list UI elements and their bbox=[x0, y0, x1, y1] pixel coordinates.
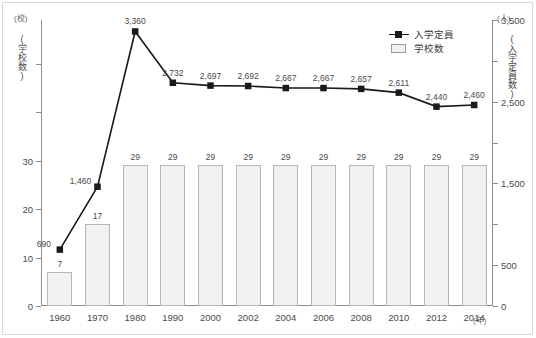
left-axis-title: (学校数) bbox=[16, 34, 29, 81]
line-value-label: 3,360 bbox=[125, 16, 146, 26]
line-marker bbox=[471, 102, 478, 109]
line-value-label: 2,611 bbox=[389, 78, 410, 88]
plot-area: 0102030 05001,5002,5003,500 717292929292… bbox=[41, 20, 493, 306]
line-value-label: 2,697 bbox=[200, 71, 221, 81]
x-axis-label: 2000 bbox=[200, 312, 221, 323]
right-tick bbox=[493, 224, 498, 225]
x-axis-label: 1970 bbox=[87, 312, 108, 323]
x-axis-label: 1990 bbox=[162, 312, 183, 323]
line-marker bbox=[132, 28, 139, 35]
right-axis-title: (入学定員数) bbox=[506, 34, 519, 99]
x-axis-label: 2008 bbox=[351, 312, 372, 323]
line-value-label: 690 bbox=[37, 239, 51, 249]
line-value-label: 2,460 bbox=[464, 90, 485, 100]
right-tick-label: 3,500 bbox=[501, 15, 525, 26]
line-value-label: 2,440 bbox=[426, 92, 447, 102]
left-axis-unit: (校) bbox=[14, 12, 27, 23]
line-value-label: 2,667 bbox=[275, 73, 296, 83]
line-series bbox=[41, 20, 493, 306]
legend: 入学定員学校数 bbox=[388, 27, 454, 55]
x-axis-label: 2004 bbox=[275, 312, 296, 323]
legend-label: 学校数 bbox=[414, 41, 444, 55]
right-tick bbox=[493, 183, 498, 184]
right-tick-label: 0 bbox=[501, 301, 506, 312]
line-marker bbox=[358, 86, 365, 93]
right-tick-label: 1,500 bbox=[501, 178, 525, 189]
legend-label: 入学定員 bbox=[414, 27, 454, 41]
line-marker bbox=[433, 103, 440, 110]
line-marker bbox=[283, 85, 290, 92]
x-axis-label: 2014 bbox=[464, 312, 485, 323]
line-value-label: 2,667 bbox=[313, 73, 334, 83]
x-axis-label: 2002 bbox=[238, 312, 259, 323]
x-axis-label: 1980 bbox=[125, 312, 146, 323]
legend-item: 入学定員 bbox=[388, 27, 454, 41]
line-marker bbox=[396, 89, 403, 96]
left-tick-label: 10 bbox=[22, 252, 33, 263]
right-tick bbox=[493, 102, 498, 103]
line-path bbox=[60, 31, 474, 249]
right-tick-label: 500 bbox=[501, 260, 517, 271]
line-marker bbox=[57, 246, 64, 253]
left-tick-label: 30 bbox=[22, 155, 33, 166]
right-tick bbox=[493, 265, 498, 266]
x-axis-label: 2006 bbox=[313, 312, 334, 323]
line-value-label: 2,732 bbox=[162, 68, 183, 78]
chart-screenshot: (校) (人) (年) (学校数) (入学定員数) 0102030 05001,… bbox=[0, 0, 536, 338]
right-tick bbox=[493, 20, 498, 21]
legend-box-icon bbox=[388, 42, 410, 54]
left-tick-label: 0 bbox=[28, 301, 33, 312]
line-marker bbox=[245, 83, 252, 90]
x-axis-label: 2012 bbox=[426, 312, 447, 323]
right-tick-label: 2,500 bbox=[501, 96, 525, 107]
line-marker bbox=[320, 85, 327, 92]
line-marker bbox=[207, 82, 214, 89]
legend-item: 学校数 bbox=[388, 41, 454, 55]
left-tick-label: 20 bbox=[22, 204, 33, 215]
right-tick bbox=[493, 306, 498, 307]
left-tick bbox=[36, 306, 41, 307]
legend-line-marker-icon bbox=[388, 28, 410, 40]
right-tick bbox=[493, 61, 498, 62]
line-marker bbox=[94, 183, 101, 190]
line-marker bbox=[170, 80, 177, 87]
line-value-label: 2,692 bbox=[238, 71, 259, 81]
line-value-label: 1,460 bbox=[70, 176, 91, 186]
x-axis-label: 2010 bbox=[388, 312, 409, 323]
line-value-label: 2,657 bbox=[351, 74, 372, 84]
right-tick bbox=[493, 143, 498, 144]
x-axis-label: 1960 bbox=[49, 312, 70, 323]
